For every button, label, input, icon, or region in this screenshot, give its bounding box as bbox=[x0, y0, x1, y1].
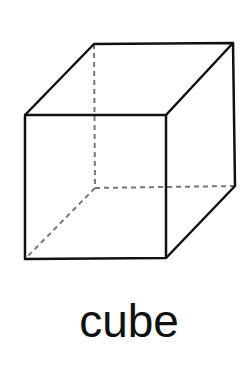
hidden-edge-diagonal bbox=[25, 188, 95, 259]
right-face bbox=[166, 43, 235, 258]
cube-diagram bbox=[0, 0, 249, 290]
top-face bbox=[25, 43, 233, 115]
shape-label: cube bbox=[0, 296, 249, 346]
